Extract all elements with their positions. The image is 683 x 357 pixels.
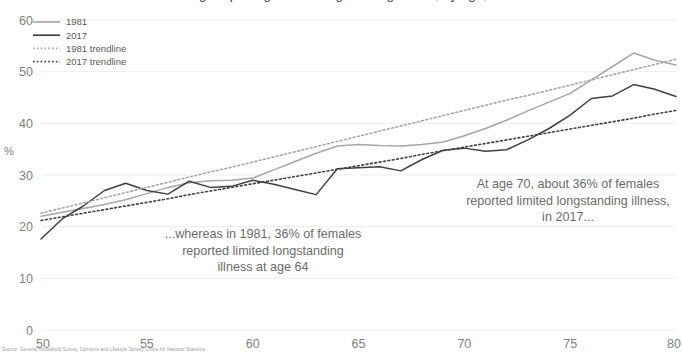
y-axis-title: % (4, 145, 14, 157)
y-tick-label: 50 (19, 65, 33, 79)
y-tick-label: 40 (19, 117, 33, 131)
legend-label: 2017 trendline (66, 56, 126, 67)
y-tick-label: 60 (19, 14, 33, 28)
source-note: Source: General Household Survey, Opinio… (2, 347, 205, 352)
annotation-1981: ...whereas in 1981, 36% of females repor… (132, 226, 394, 276)
legend-label: 1981 (66, 16, 87, 27)
x-tick-label: 60 (246, 337, 260, 351)
y-tick-label: 0 (26, 324, 33, 338)
y-tick-label: 30 (19, 169, 33, 183)
chart-container: Percentage reporting limited longstandin… (0, 0, 683, 357)
annotation-2017: At age 70, about 36% of females reported… (448, 176, 683, 226)
chart-legend: 198120171981 trendline2017 trendline (33, 16, 126, 67)
x-tick-label: 70 (457, 337, 471, 351)
x-tick-label: 80 (667, 337, 681, 351)
legend-label: 2017 (66, 30, 87, 41)
y-tick-label: 20 (19, 220, 33, 234)
y-axis-tick-labels: 0102030405060 (19, 14, 33, 338)
legend-label: 1981 trendline (66, 43, 126, 54)
y-tick-label: 10 (19, 272, 33, 286)
x-tick-label: 75 (563, 337, 577, 351)
x-tick-label: 65 (352, 337, 366, 351)
gridlines (41, 20, 676, 330)
